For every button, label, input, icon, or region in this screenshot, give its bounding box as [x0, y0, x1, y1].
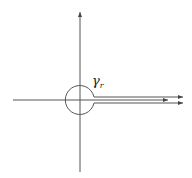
gamma-symbol: γ — [92, 73, 100, 88]
gamma-r-label: γr — [92, 74, 104, 90]
gamma-subscript: r — [100, 81, 104, 90]
